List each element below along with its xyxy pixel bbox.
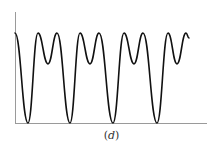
figure-caption: (d) — [0, 129, 219, 142]
waveform-plot — [0, 0, 219, 150]
waveform-curve — [15, 33, 189, 123]
caption-letter: d — [108, 129, 115, 142]
caption-close-paren: ) — [115, 129, 119, 142]
